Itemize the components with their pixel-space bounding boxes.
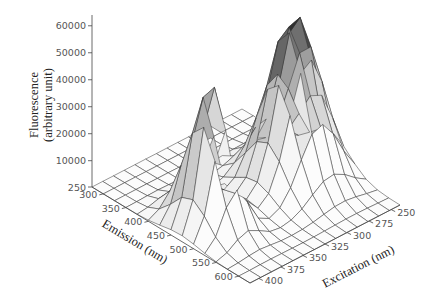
emission-tick-label: 500 bbox=[169, 244, 187, 255]
z-axis-label-line1: Fluorescence bbox=[27, 72, 41, 138]
z-tick-label: 40000 bbox=[56, 74, 86, 85]
excitation-tick-label: 350 bbox=[309, 252, 327, 263]
surface-chart: 600005000040000300002000010000250 300350… bbox=[0, 0, 436, 307]
z-tick-label: 10000 bbox=[56, 155, 86, 166]
emission-tick-label: 300 bbox=[79, 189, 97, 200]
excitation-tick-label: 275 bbox=[375, 218, 393, 229]
excitation-tick-label: 250 bbox=[397, 207, 415, 218]
emission-axis-ticks: 300350400450500550600 bbox=[79, 189, 239, 282]
emission-tick-label: 350 bbox=[102, 203, 120, 214]
emission-tick-label: 550 bbox=[192, 257, 210, 268]
z-tick-label: 30000 bbox=[56, 101, 86, 112]
z-tick-label: 50000 bbox=[56, 47, 86, 58]
excitation-tick-label: 325 bbox=[331, 241, 349, 252]
excitation-tick-label: 300 bbox=[353, 230, 371, 241]
z-axis-ticks: 600005000040000300002000010000250 bbox=[56, 20, 92, 192]
emission-tick-label: 600 bbox=[215, 271, 233, 282]
excitation-tick-label: 375 bbox=[287, 264, 305, 275]
z-axis-label-line2: (arbitrary unit) bbox=[41, 68, 55, 142]
emission-tick-label: 400 bbox=[124, 216, 142, 227]
axes-layer: 600005000040000300002000010000250 300350… bbox=[0, 0, 436, 307]
emission-tick-label: 450 bbox=[147, 230, 165, 241]
z-tick-label: 60000 bbox=[56, 20, 86, 31]
z-tick-label: 20000 bbox=[56, 128, 86, 139]
excitation-tick-label: 400 bbox=[265, 275, 283, 286]
